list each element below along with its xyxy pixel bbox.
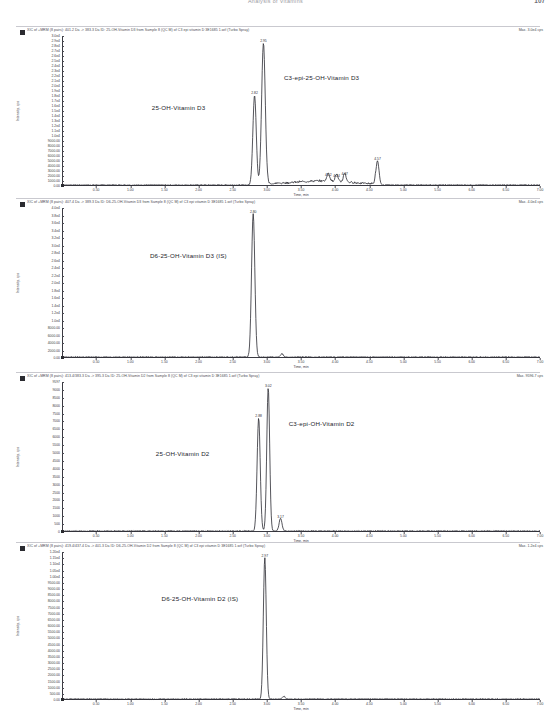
y-axis-tick: 3.4e4 bbox=[52, 229, 63, 233]
x-axis-tick: 7.00 bbox=[537, 702, 544, 706]
y-axis-tick: 1500 bbox=[52, 506, 62, 510]
analyte-annotation: C3-epi-OH-Vitamin D2 bbox=[289, 420, 355, 427]
peak-retention-time-label: 2.80 bbox=[250, 210, 257, 214]
y-axis-tick: 4500 bbox=[52, 459, 62, 463]
y-axis-tick: 1.05e4 bbox=[50, 569, 62, 573]
running-header: Analysis of Vitamins 107 bbox=[0, 0, 551, 12]
y-axis-tick: 1000 bbox=[52, 514, 62, 518]
y-axis-tick: 4.0e4 bbox=[52, 206, 63, 210]
x-axis-tick: 2.00 bbox=[195, 702, 202, 706]
y-axis-tick: 1.4e4 bbox=[52, 304, 63, 308]
y-axis-tick: 2.7e4 bbox=[52, 49, 63, 53]
panel-divider bbox=[16, 542, 540, 543]
y-axis-tick: 6000.00 bbox=[48, 154, 62, 158]
chromatogram-panel-1: XIC of +MRM (8 pairs): 401.2 Da -> 383.3… bbox=[0, 26, 551, 198]
y-axis-tick: 2.0e4 bbox=[52, 84, 63, 88]
peak-retention-time-label: 2.88 bbox=[255, 414, 262, 418]
y-axis-tick: 2.4e4 bbox=[52, 266, 63, 270]
x-axis-tick: 3.00 bbox=[264, 702, 271, 706]
y-axis-tick: 500 bbox=[54, 522, 62, 526]
analyte-annotation: 25-OH-Vitamin D2 bbox=[156, 450, 210, 457]
y-axis-label: Intensity, cps bbox=[16, 616, 20, 636]
y-axis-tick: 1.1e4 bbox=[52, 129, 63, 133]
panel-divider bbox=[16, 26, 540, 27]
x-axis-tick: 3.50 bbox=[298, 534, 305, 538]
x-axis-tick: 6.50 bbox=[503, 702, 510, 706]
panel-caption: XIC of +MRM (8 pairs): 413.4/383.3 Da ->… bbox=[27, 374, 259, 379]
y-axis-tick: 2.1e4 bbox=[52, 79, 63, 83]
x-axis-label: Time, min bbox=[293, 707, 308, 711]
x-axis-tick: 2.00 bbox=[195, 188, 202, 192]
y-axis-tick: 4500.00 bbox=[48, 643, 62, 647]
peak-retention-time-label: 4.24 bbox=[333, 174, 340, 178]
y-axis-tick: 2500.00 bbox=[48, 667, 62, 671]
y-axis-tick: 7000 bbox=[52, 419, 62, 423]
x-axis-tick: 0.50 bbox=[93, 360, 100, 364]
y-axis-tick: 6500.00 bbox=[48, 618, 62, 622]
y-axis-tick: 1.4e4 bbox=[52, 114, 63, 118]
panel-marker-icon bbox=[20, 546, 25, 551]
x-axis-tick: 1.50 bbox=[161, 188, 168, 192]
panel-max-label: Max. 4.0e4 cps bbox=[519, 200, 543, 205]
y-axis-tick: 7000.00 bbox=[48, 612, 62, 616]
x-axis-tick: 4.50 bbox=[366, 360, 373, 364]
x-axis-tick: 7.00 bbox=[537, 360, 544, 364]
y-axis-tick: 1000.00 bbox=[48, 686, 62, 690]
x-axis-tick: 3.00 bbox=[264, 534, 271, 538]
y-axis-tick: 2.3e4 bbox=[52, 69, 63, 73]
plot-area: Intensity, cps Time, min 1.20e41.15e41.1… bbox=[62, 552, 540, 700]
y-axis-tick: 5500 bbox=[52, 443, 62, 447]
x-axis-tick: 3.50 bbox=[298, 702, 305, 706]
plot-area: Intensity, cps Time, min 4.0e43.8e43.6e4… bbox=[62, 208, 540, 358]
y-axis-tick: 7500.00 bbox=[48, 606, 62, 610]
x-axis-tick: 5.00 bbox=[400, 702, 407, 706]
y-axis-tick: 1.10e4 bbox=[50, 562, 62, 566]
y-axis-tick: 1.2e4 bbox=[52, 124, 63, 128]
panel-marker-icon bbox=[20, 376, 25, 381]
y-axis-tick: 3000.00 bbox=[48, 661, 62, 665]
x-axis-tick: 2.50 bbox=[229, 360, 236, 364]
y-axis-tick: 9597 bbox=[52, 380, 62, 384]
y-axis-tick: 5500.00 bbox=[48, 630, 62, 634]
analyte-annotation: D6-25-OH-Vitamin D2 (IS) bbox=[161, 595, 238, 602]
y-axis-tick: 4000.00 bbox=[48, 164, 62, 168]
y-axis-tick: 2000.00 bbox=[48, 174, 62, 178]
x-axis-tick: 5.00 bbox=[400, 534, 407, 538]
y-axis-tick: 3.8e4 bbox=[52, 214, 63, 218]
x-axis-label: Time, min bbox=[293, 193, 308, 197]
y-axis-tick: 2.2e4 bbox=[52, 274, 63, 278]
x-axis-tick: 4.50 bbox=[366, 702, 373, 706]
y-axis-tick: 2.6e4 bbox=[52, 259, 63, 263]
y-axis-tick: 8500 bbox=[52, 396, 62, 400]
chromatogram-trace bbox=[62, 382, 540, 532]
chromatogram-panel-4: XIC of +MRM (8 pairs): 419.4/437.4 Da ->… bbox=[0, 542, 551, 726]
chromatogram-panel-3: XIC of +MRM (8 pairs): 413.4/383.3 Da ->… bbox=[0, 372, 551, 542]
y-axis-tick: 6000.00 bbox=[48, 624, 62, 628]
y-axis-tick: 9000.00 bbox=[48, 139, 62, 143]
x-axis-tick: 0.50 bbox=[93, 702, 100, 706]
y-axis-tick: 8000.00 bbox=[48, 326, 62, 330]
y-axis-tick: 2500 bbox=[52, 491, 62, 495]
x-axis-tick: 0.50 bbox=[93, 188, 100, 192]
x-axis-tick: 6.00 bbox=[468, 534, 475, 538]
y-axis-tick: 3.6e4 bbox=[52, 221, 63, 225]
y-axis-tick: 2.4e4 bbox=[52, 64, 63, 68]
y-axis-tick: 5000 bbox=[52, 451, 62, 455]
x-axis-tick: 0.50 bbox=[93, 534, 100, 538]
panel-divider bbox=[16, 198, 540, 199]
y-axis-tick: 9000.00 bbox=[48, 587, 62, 591]
peak-retention-time-label: 2.95 bbox=[260, 39, 267, 43]
y-axis-tick: 7500 bbox=[52, 412, 62, 416]
y-axis-tick: 2000.00 bbox=[48, 349, 62, 353]
y-axis-tick: 1.6e4 bbox=[52, 296, 63, 300]
y-axis-tick: 7000.00 bbox=[48, 149, 62, 153]
x-axis-tick: 2.00 bbox=[195, 360, 202, 364]
y-axis-tick: 1.5e4 bbox=[52, 109, 63, 113]
y-axis-tick: 1.0e4 bbox=[52, 134, 63, 138]
y-axis-label: Intensity, cps bbox=[16, 273, 20, 293]
y-axis-tick: 2.9e4 bbox=[52, 39, 63, 43]
x-axis-tick: 4.00 bbox=[332, 702, 339, 706]
y-axis-tick: 3.0e4 bbox=[52, 244, 63, 248]
y-axis-tick: 1.00e4 bbox=[50, 575, 62, 579]
y-axis-tick: 3.0e4 bbox=[52, 34, 63, 38]
